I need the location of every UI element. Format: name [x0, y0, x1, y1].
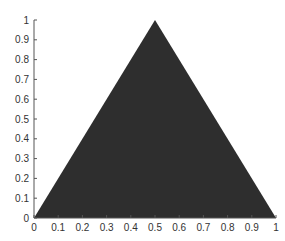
x-tick-label: 0.4	[124, 222, 138, 233]
y-tick-label: 1	[23, 15, 29, 26]
x-tick-label: 0.1	[51, 222, 65, 233]
y-tick-label: 0.4	[15, 133, 29, 144]
y-tick-label: 0.8	[15, 54, 29, 65]
x-tick-label: 0.7	[196, 222, 210, 233]
x-tick-label: 0	[31, 222, 37, 233]
x-tick-label: 0.5	[148, 222, 162, 233]
x-tick-label: 0.8	[221, 222, 235, 233]
x-tick-label: 0.9	[245, 222, 259, 233]
x-tick-label: 0.6	[172, 222, 186, 233]
x-tick-label: 0.2	[75, 222, 89, 233]
y-tick-label: 0.7	[15, 74, 29, 85]
y-tick-label: 0.1	[15, 193, 29, 204]
y-tick-label: 0.9	[15, 34, 29, 45]
y-tick-label: 0.5	[15, 114, 29, 125]
y-tick-label: 0.2	[15, 173, 29, 184]
triangle-chart: 00.10.20.30.40.50.60.70.80.91 00.10.20.3…	[0, 0, 285, 241]
triangle-area	[34, 20, 276, 218]
x-tick-label: 1	[273, 222, 279, 233]
y-tick-label: 0	[23, 213, 29, 224]
y-tick-label: 0.6	[15, 94, 29, 105]
x-tick-label: 0.3	[100, 222, 114, 233]
y-tick-label: 0.3	[15, 153, 29, 164]
